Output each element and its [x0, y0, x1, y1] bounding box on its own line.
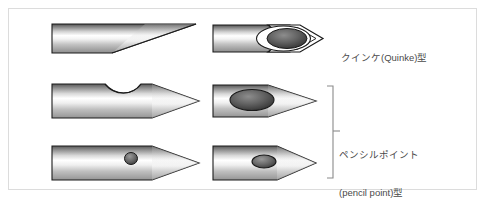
needle-top-right-port — [267, 29, 307, 49]
quincke-type-label-line-1: クインケ(Quinke)型 — [341, 52, 427, 65]
needle-bottom-left-port — [125, 153, 138, 165]
needle-tip-types-figure: クインケ(Quinke)型 ペンシルポイント (pencil point)型 — [0, 0, 486, 206]
pencil-point-type-label-line-1: ペンシルポイント — [339, 149, 419, 162]
pencil-point-type-label-line-2: (pencil point)型 — [339, 187, 419, 200]
needle-middle-right — [213, 85, 316, 117]
needle-top-right — [213, 25, 323, 52]
needle-middle-right-cone-shading — [268, 85, 316, 117]
needle-middle-left — [52, 84, 199, 118]
needle-middle-left-cone-shading — [152, 84, 199, 118]
needle-top-left — [52, 24, 196, 53]
needle-bottom-right-cone-shading — [277, 146, 316, 180]
needle-bottom-right-port — [252, 155, 276, 168]
quincke-type-label: クインケ(Quinke)型 — [341, 27, 427, 90]
needle-middle-right-port — [230, 90, 274, 111]
needle-bottom-right — [213, 146, 316, 180]
pencil-point-type-label: ペンシルポイント (pencil point)型 — [339, 124, 419, 206]
needle-bottom-left — [52, 146, 199, 180]
needle-bottom-left-cone-shading — [152, 146, 199, 180]
pencil-point-bracket-shape — [327, 86, 333, 178]
